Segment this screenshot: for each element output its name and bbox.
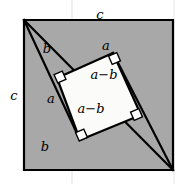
label-leg-top-b: b [43, 42, 51, 55]
label-leg-left-a: a [47, 92, 55, 105]
label-leg-top-a: a [102, 39, 110, 52]
label-inner-side-upper: a−b [91, 68, 118, 81]
label-outer-left-c: c [10, 89, 17, 102]
label-inner-side-lower: a−b [78, 102, 105, 115]
label-outer-top-c: c [96, 8, 103, 21]
geometry-canvas [0, 0, 192, 184]
label-leg-bottom-b: b [41, 140, 49, 153]
geometry-figure: c c b a a b a−b a−b [0, 0, 192, 184]
